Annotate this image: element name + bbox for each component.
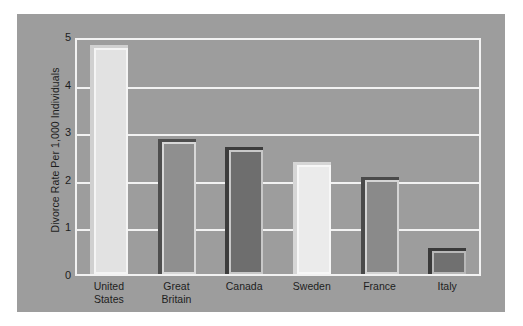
bars-layer xyxy=(77,40,479,274)
bar-sweden[interactable] xyxy=(297,165,331,274)
y-tick-label: 2 xyxy=(47,175,71,186)
y-tick-label: 4 xyxy=(47,80,71,91)
x-axis-tick-labels: United StatesGreat BritainCanadaSwedenFr… xyxy=(75,280,481,314)
chart-figure-card: Divorce Rate Per 1,000 Individuals 01234… xyxy=(17,14,505,312)
y-tick-label: 1 xyxy=(47,222,71,233)
bar-united-states[interactable] xyxy=(94,48,128,274)
bar-canada[interactable] xyxy=(229,150,263,274)
bar-france[interactable] xyxy=(365,180,399,274)
bar-great-britain[interactable] xyxy=(162,142,196,274)
y-axis-tick-labels: 012345 xyxy=(47,24,71,262)
divorce-rate-bar-chart: Divorce Rate Per 1,000 Individuals 01234… xyxy=(0,0,523,326)
x-tick-label: Italy xyxy=(407,280,487,293)
bar-italy[interactable] xyxy=(432,251,466,274)
y-tick-label: 0 xyxy=(47,270,71,281)
y-tick-label: 3 xyxy=(47,127,71,138)
plot-area xyxy=(75,38,481,276)
y-tick-label: 5 xyxy=(47,32,71,43)
